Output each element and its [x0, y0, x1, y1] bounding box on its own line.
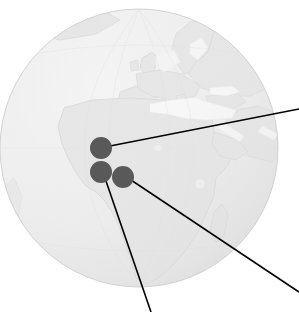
globe-illustration — [0, 0, 299, 312]
figure-canvas — [0, 0, 299, 312]
globe-limb-shading — [0, 9, 278, 287]
map-marker-3[interactable] — [112, 166, 134, 188]
map-marker-1[interactable] — [90, 137, 112, 159]
map-marker-2[interactable] — [90, 161, 112, 183]
globe-surface — [0, 6, 292, 287]
